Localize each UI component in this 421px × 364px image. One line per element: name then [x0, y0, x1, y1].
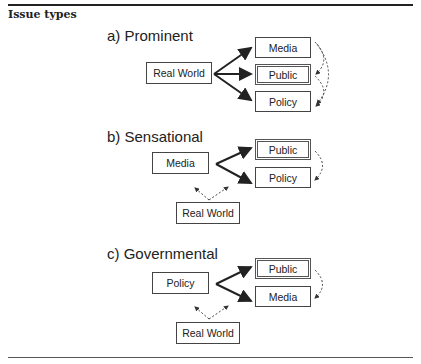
node-real-world: Real World: [176, 202, 240, 224]
node-policy: Policy: [255, 167, 311, 188]
node-public: Public: [255, 258, 311, 279]
node-real-world: Real World: [176, 322, 240, 344]
node-policy: Policy: [255, 91, 311, 112]
panel-c-title: c) Governmental: [107, 245, 218, 262]
bottom-rule: [8, 357, 413, 358]
panel-b-title: b) Sensational: [107, 128, 203, 145]
node-public: Public: [255, 139, 311, 160]
node-media: Media: [255, 37, 311, 58]
node-media: Media: [255, 286, 311, 307]
panel-a-title: a) Prominent: [107, 27, 193, 44]
node-media: Media: [152, 152, 209, 174]
node-public: Public: [255, 64, 311, 85]
arrows-layer: [0, 0, 421, 364]
node-real-world: Real World: [146, 62, 212, 84]
node-policy: Policy: [152, 272, 209, 294]
